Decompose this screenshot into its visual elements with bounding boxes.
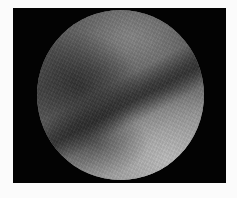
circular-field-of-view [37,10,204,180]
edge-vignette [37,10,204,180]
image-frame [13,8,226,183]
